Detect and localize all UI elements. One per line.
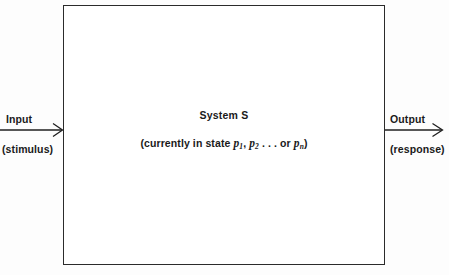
input-sublabel: (stimulus) bbox=[2, 143, 53, 156]
system-box bbox=[63, 5, 385, 265]
output-arrow-icon bbox=[385, 122, 445, 138]
input-arrow-icon bbox=[0, 122, 64, 138]
diagram-canvas: System S (currently in statep1, p2 . . .… bbox=[0, 0, 449, 275]
output-sublabel: (response) bbox=[390, 143, 445, 156]
